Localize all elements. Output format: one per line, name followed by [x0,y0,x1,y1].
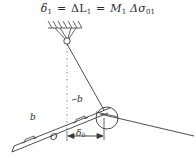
label-dimension-delta: δ0 [76,128,85,138]
support-hatching-icon [48,21,82,28]
right-arm-bar [100,114,194,136]
label-origin-O: O [50,132,57,142]
inclined-bar-bottom-edge [12,113,108,152]
label-bar-right: b [77,94,83,104]
mechanics-diagram-figure: δ1 = ΔL1 = M1 Δσ01 [0,0,196,158]
label-bar-left: b [30,112,36,122]
roller-circle-icon [96,107,118,129]
label-dimension-subscript: 0 [81,131,85,138]
inclined-bar-top-edge [14,108,110,146]
diagram-canvas [0,0,196,158]
dimension-line-delta0 [68,134,103,139]
pin-joint-circle-icon [64,38,70,44]
